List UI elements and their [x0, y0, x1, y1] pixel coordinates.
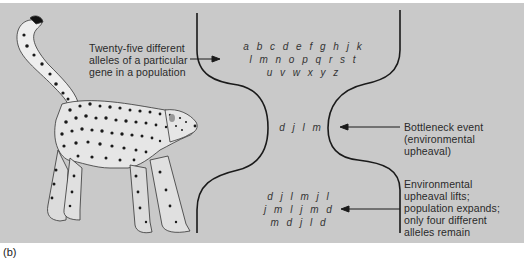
- arrow-bottleneck: [340, 124, 400, 130]
- allele-row: d j l m: [272, 121, 328, 134]
- allele-row: u v w x y z: [220, 66, 385, 79]
- label-line: alleles of a particular: [89, 54, 188, 66]
- allele-row: m d j l d: [250, 216, 346, 229]
- arrow-final: [341, 206, 400, 212]
- allele-row: d j l m j l: [250, 190, 346, 203]
- allele-row: j m l j m d: [250, 203, 346, 216]
- allele-row: l m n o p q r s t: [220, 53, 385, 66]
- initial-alleles: a b c d e f g h j k l m n o p q r s t u …: [220, 40, 385, 79]
- label-line: upheaval): [404, 145, 483, 157]
- label-line: (environmental: [404, 133, 483, 145]
- label-line: gene in a population: [89, 66, 188, 78]
- bottleneck-alleles: d j l m: [272, 121, 328, 134]
- label-line: only four different: [404, 214, 500, 226]
- label-line: Twenty-five different: [89, 42, 188, 54]
- figure-caption: (b): [3, 246, 16, 258]
- label-line: upheaval lifts;: [404, 190, 500, 202]
- label-line: population expands;: [404, 202, 500, 214]
- initial-population-label: Twenty-five different alleles of a parti…: [89, 42, 188, 78]
- recovery-label: Environmental upheaval lifts; population…: [404, 178, 500, 238]
- allele-row: a b c d e f g h j k: [220, 40, 385, 53]
- final-alleles: d j l m j l j m l j m d m d j l d: [250, 190, 346, 229]
- label-line: Environmental: [404, 178, 500, 190]
- bottleneck-event-label: Bottleneck event (environmental upheaval…: [404, 121, 483, 157]
- arrow-initial: [190, 56, 220, 62]
- label-line: alleles remain: [404, 226, 500, 238]
- label-line: Bottleneck event: [404, 121, 483, 133]
